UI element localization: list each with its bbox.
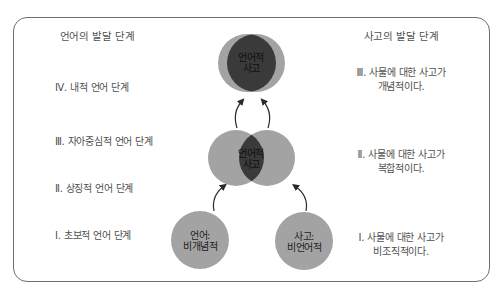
top-circle-label-line2: 사고 — [238, 63, 264, 74]
bottom-left-circle-label: 언어: 비개념적 — [183, 230, 217, 252]
bottom-right-circle-label: 사고: 비언어적 — [287, 231, 321, 253]
middle-circle-label-line1: 언어적 — [238, 148, 264, 159]
bottom-right-circle-label-line2: 비언어적 — [287, 242, 321, 253]
arrow-mid-to-top-left — [235, 101, 242, 128]
arrow-bottom-to-mid-right — [295, 186, 307, 211]
top-circle-label: 언어적 사고 — [238, 52, 264, 74]
top-circle-label-line1: 언어적 — [238, 52, 264, 63]
arrow-bottom-to-mid-left — [213, 186, 224, 211]
middle-circle-label-line2: 사고 — [238, 159, 264, 170]
bottom-right-circle-label-line1: 사고: — [287, 231, 321, 242]
bottom-left-circle-label-line2: 비개념적 — [183, 241, 217, 252]
middle-circle-label: 언어적 사고 — [238, 148, 264, 170]
arrow-mid-to-top-right — [263, 101, 270, 128]
bottom-left-circle-label-line1: 언어: — [183, 230, 217, 241]
